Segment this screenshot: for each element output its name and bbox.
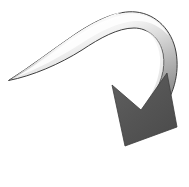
curved-arrow-graphic: Curved Arrow Graphic A glossy grey curve… [0, 0, 189, 187]
arrow-graphic-canvas: Curved Arrow Graphic A glossy grey curve… [0, 0, 189, 187]
arrowhead [112, 73, 177, 146]
